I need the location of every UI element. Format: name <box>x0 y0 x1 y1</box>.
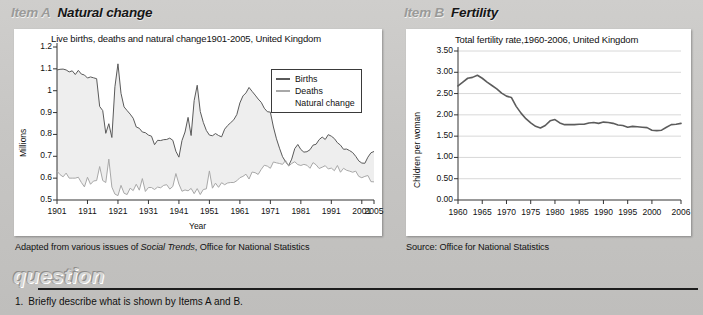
question-item-1: 1.Briefly describe what is shown by Item… <box>15 296 243 307</box>
chart-a-x-tick-label: 1991 <box>315 206 347 216</box>
chart-b-y-tick-label: 0.50 <box>420 173 453 183</box>
chart-b-panel: Total fertility rate,1960-2006, United K… <box>406 29 691 236</box>
chart-b-y-tick-label: 3.00 <box>420 66 453 76</box>
chart-a-source-caption: Adapted from various issues of Social Tr… <box>15 242 309 252</box>
item-a-heading: Item ANatural change <box>11 5 152 20</box>
question-divider <box>38 288 698 290</box>
item-b-tag: Item B <box>404 5 444 20</box>
chart-b-y-tick-label: 1.00 <box>420 151 453 161</box>
question-item-1-text: Briefly describe what is shown by Items … <box>28 296 243 307</box>
chart-b-x-tick-label: 2000 <box>636 207 668 217</box>
chart-b-y-tick-label: 3.50 <box>420 45 453 55</box>
chart-a-plot <box>14 29 382 236</box>
caption-a-publication: Social Trends <box>141 242 195 252</box>
legend-swatch-icon <box>276 102 290 104</box>
chart-b-y-tick-label: 0.00 <box>420 194 453 204</box>
item-b-title: Fertility <box>451 5 498 20</box>
chart-a-panel: Live births, deaths and natural change19… <box>14 29 382 236</box>
chart-a-y-tick-label: 1.1 <box>20 63 52 73</box>
chart-b-y-tick-label: 2.00 <box>420 109 453 119</box>
legend-swatch-icon <box>276 78 290 80</box>
chart-a-legend-label: Natural change <box>295 98 355 108</box>
chart-a-x-tick-label: 1911 <box>71 206 103 216</box>
chart-a-legend-label: Births <box>295 74 318 84</box>
chart-a-x-tick-label: 1981 <box>285 206 317 216</box>
question-section-heading: question <box>13 264 105 288</box>
chart-a-legend-item: Births <box>276 73 355 85</box>
chart-a-legend-item: Natural change <box>276 97 355 109</box>
item-a-title: Natural change <box>58 5 153 20</box>
caption-a-suffix: , Office for National Statistics <box>195 242 310 252</box>
chart-a-y-tick-label: 1 <box>20 85 52 95</box>
legend-swatch-icon <box>276 90 290 92</box>
chart-a-x-tick-label: 1951 <box>193 206 225 216</box>
chart-a-y-tick-label: 0.8 <box>20 128 52 138</box>
chart-b-source-caption: Source: Office for National Statistics <box>406 242 549 252</box>
page-background: Item ANatural change Item BFertility Liv… <box>0 0 703 315</box>
chart-a-x-tick-label: 1901 <box>41 206 73 216</box>
chart-a-y-tick-label: 1.2 <box>20 41 52 51</box>
chart-a-x-tick-label: 2005 <box>358 206 390 216</box>
chart-a-legend-item: Deaths <box>276 85 355 97</box>
chart-a-x-tick-label: 1971 <box>254 206 286 216</box>
chart-a-y-tick-label: 0.6 <box>20 172 52 182</box>
chart-b-y-tick-label: 1.50 <box>420 130 453 140</box>
chart-a-y-tick-label: 0.5 <box>20 194 52 204</box>
chart-a-y-tick-label: 0.9 <box>20 107 52 117</box>
chart-a-x-tick-label: 1961 <box>224 206 256 216</box>
chart-a-x-tick-label: 1931 <box>132 206 164 216</box>
chart-a-legend: BirthsDeathsNatural change <box>271 69 362 113</box>
caption-a-prefix: Adapted from various issues of <box>15 242 141 252</box>
chart-b-y-tick-label: 2.50 <box>420 88 453 98</box>
item-a-tag: Item A <box>11 5 51 20</box>
chart-a-x-tick-label: 1941 <box>163 206 195 216</box>
question-item-1-number: 1. <box>15 296 23 307</box>
chart-a-x-tick-label: 1921 <box>102 206 134 216</box>
chart-a-y-tick-label: 0.7 <box>20 150 52 160</box>
chart-b-x-tick-label: 2006 <box>665 207 697 217</box>
item-b-heading: Item BFertility <box>404 5 498 20</box>
chart-a-legend-label: Deaths <box>295 86 323 96</box>
